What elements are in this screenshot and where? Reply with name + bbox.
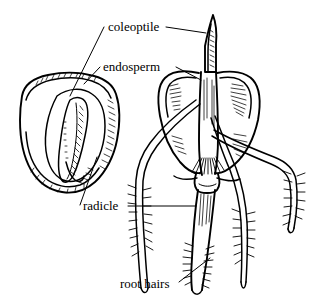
- seed-inner-rim: [26, 78, 111, 100]
- lateral-root-left-hairs: [128, 185, 153, 256]
- root-junction-left: [174, 176, 197, 179]
- embryo-stipple: [64, 122, 68, 158]
- leader-coleoptile-left: [70, 27, 104, 96]
- lateral-root-mid-tip: [241, 282, 246, 288]
- stem-shading: [204, 78, 214, 126]
- lateral-root-mid-left-edge: [211, 118, 242, 282]
- germination-diagram: coleoptile endosperm radicle root hairs: [0, 0, 318, 302]
- radicle-root-tip: [192, 290, 202, 294]
- lateral-root-left-outer-edge: [136, 100, 196, 288]
- root-collar-crease: [199, 184, 216, 186]
- label-coleoptile: coleoptile: [108, 19, 159, 34]
- label-endosperm: endosperm: [103, 59, 160, 74]
- radicle-shading: [199, 194, 211, 226]
- seed-right-shading: [100, 100, 115, 169]
- root-junction-right: [217, 178, 240, 181]
- lateral-root-right-lower-edge: [212, 136, 291, 229]
- seedling-seed-right-lobe: [215, 72, 260, 174]
- radicle-root-left-edge: [191, 190, 198, 290]
- seedling-seed-right-rim: [220, 77, 251, 118]
- lateral-root-mid-hairs: [232, 209, 255, 264]
- lateral-root-right-hairs: [283, 171, 305, 225]
- seedling-illustration: [128, 15, 305, 294]
- embryo-axis: [59, 98, 88, 183]
- leader-coleoptile-right: [166, 27, 206, 33]
- label-radicle: radicle: [83, 198, 119, 213]
- embryo-crease: [67, 103, 77, 179]
- seedling-right-lobe-hatching: [231, 84, 246, 116]
- lateral-root-right-tip: [288, 228, 294, 233]
- seedling-left-lobe-lower-hatching: [172, 136, 186, 154]
- endosperm-boundary: [45, 89, 105, 181]
- seed-base-fibers: [192, 157, 224, 174]
- seedling-left-lobe-hatching: [170, 84, 181, 110]
- diagram-canvas: coleoptile endosperm radicle root hairs: [0, 0, 318, 302]
- coleoptile-shading: [210, 30, 214, 67]
- seed-illustration: [20, 73, 119, 193]
- label-root-hairs: root hairs: [120, 276, 169, 291]
- radicle-root-right-edge: [202, 190, 215, 290]
